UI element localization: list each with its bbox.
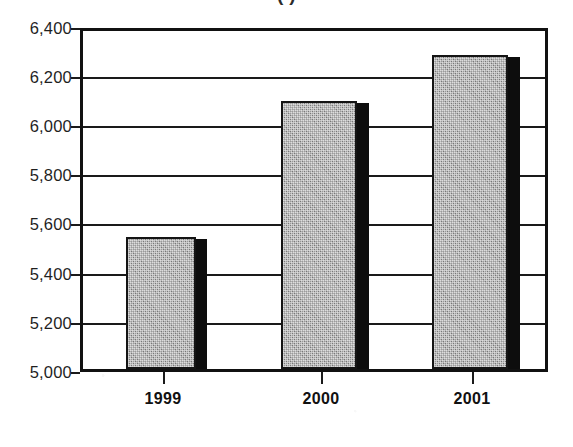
x-axis-tick-2001: [472, 372, 474, 384]
bar-2001[interactable]: [432, 55, 518, 369]
y-axis-tick-6400: [71, 28, 80, 30]
y-axis-label-5600: 5,600: [30, 216, 72, 232]
y-axis-label-6000: 6,000: [30, 118, 72, 134]
bar-1999[interactable]: [126, 237, 206, 369]
y-axis-tick-6200: [71, 77, 80, 79]
y-axis-label-6400: 6,400: [30, 20, 72, 36]
y-axis-label-5800: 5,800: [30, 167, 72, 183]
y-axis-tick-5200: [71, 323, 80, 325]
bar-chart: 6,400 6,200 6,000 5,800 5,600 5,400 5,20…: [0, 0, 573, 447]
y-axis-tick-5400: [71, 274, 80, 276]
y-axis-tick-5800: [71, 175, 80, 177]
bar-body-2000: [281, 101, 357, 369]
y-axis-tick-5600: [71, 224, 80, 226]
y-axis-label-5200: 5,200: [30, 315, 72, 331]
x-axis-tick-1999: [163, 372, 165, 384]
x-axis-label-2000: 2000: [281, 390, 361, 408]
y-axis-label-6200: 6,200: [30, 69, 72, 85]
x-axis-label-2001: 2001: [432, 390, 512, 408]
x-axis-tick-2000: [321, 372, 323, 384]
y-axis-label-5000: 5,000: [30, 364, 72, 380]
y-axis-tick-5000: [71, 372, 80, 374]
plot-area: [80, 28, 548, 372]
bar-body-1999: [126, 237, 196, 369]
bar-body-2001: [432, 55, 508, 369]
y-axis-label-5400: 5,400: [30, 266, 72, 282]
x-axis-label-1999: 1999: [123, 390, 203, 408]
y-axis-tick-6000: [71, 126, 80, 128]
bar-2000[interactable]: [281, 101, 367, 369]
